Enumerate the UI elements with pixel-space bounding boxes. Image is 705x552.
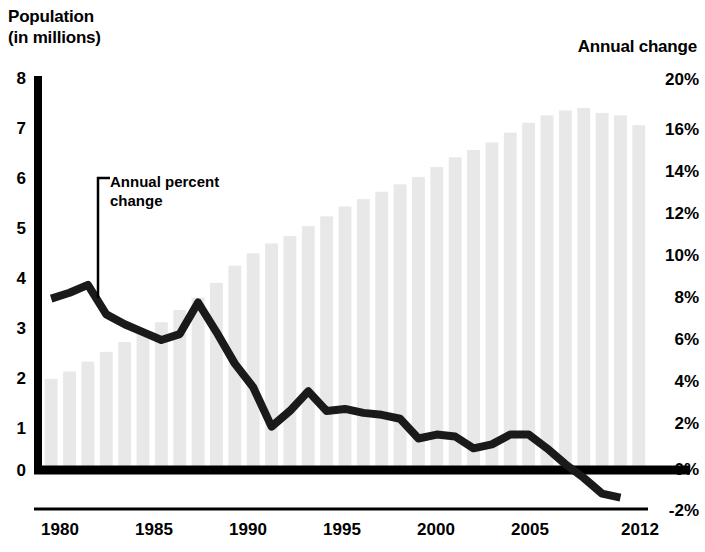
bar-2011 — [614, 115, 627, 470]
plot-area — [0, 0, 705, 552]
bar-2009 — [577, 108, 590, 470]
bar-1982 — [81, 362, 94, 470]
bar-1985 — [137, 332, 150, 470]
bar-1989 — [210, 283, 223, 470]
bar-1983 — [100, 352, 113, 470]
bar-1996 — [339, 207, 352, 470]
bar-1998 — [375, 192, 388, 470]
bar-1981 — [63, 372, 76, 471]
bar-1997 — [357, 199, 370, 470]
bar-1994 — [302, 226, 315, 470]
annotation-leader-line — [98, 178, 110, 298]
bar-2012 — [632, 125, 645, 470]
bar-2001 — [430, 167, 443, 470]
bar-1991 — [247, 253, 260, 470]
bar-1993 — [283, 236, 296, 470]
bar-2005 — [504, 133, 517, 470]
bar-1984 — [118, 342, 131, 470]
bar-2000 — [412, 177, 425, 470]
bar-2004 — [485, 142, 498, 470]
bar-2006 — [522, 123, 535, 470]
bar-2010 — [596, 113, 609, 470]
bar-series — [45, 108, 645, 470]
bar-2002 — [449, 157, 462, 470]
bar-1995 — [320, 216, 333, 470]
bar-2007 — [541, 115, 554, 470]
bar-1988 — [192, 298, 205, 470]
bar-1980 — [45, 379, 58, 470]
bar-1992 — [265, 243, 278, 470]
chart-container: Population (in millions) Annual change A… — [0, 0, 705, 552]
bar-2008 — [559, 110, 572, 470]
bar-2003 — [467, 150, 480, 470]
bar-1986 — [155, 322, 168, 470]
